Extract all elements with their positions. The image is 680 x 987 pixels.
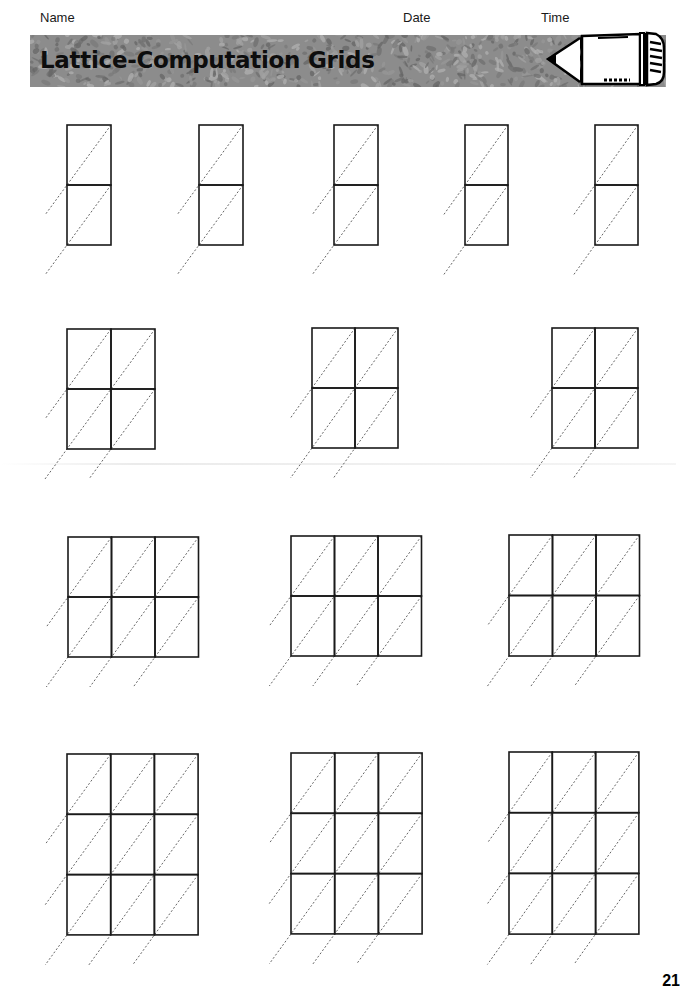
diagonal-guide-line (531, 328, 639, 478)
diagonal-guide-line (45, 754, 111, 845)
lattice-grid-3x2 (487, 535, 639, 686)
lattice-grid-2x2 (45, 329, 155, 479)
diagonal-guide-line (487, 535, 552, 626)
diagonal-guide-line (487, 535, 596, 686)
diagonal-guide-line (46, 537, 155, 687)
diagonal-guide-line (45, 754, 198, 965)
diagonal-guide-line (133, 875, 199, 965)
diagonal-guide-line (312, 185, 378, 275)
lattice-grid-1x2 (45, 125, 111, 275)
diagonal-guide-line (89, 814, 198, 965)
diagonal-guide-line (45, 125, 111, 215)
lattice-grid-1x2 (177, 125, 243, 275)
diagonal-guide-line (574, 125, 639, 215)
lattice-grid-2x2 (291, 328, 399, 478)
lattice-grid-1x2 (574, 125, 639, 275)
lattice-grid-3x2 (46, 537, 198, 687)
diagonal-guide-line (89, 389, 155, 479)
diagonal-guide-line (269, 536, 334, 626)
lattice-grid-2x2 (531, 328, 639, 478)
diagonal-guide-line (574, 596, 639, 687)
diagonal-guide-line (45, 329, 155, 479)
diagonal-guide-line (90, 537, 199, 687)
diagonal-guide-line (531, 535, 640, 686)
diagonal-guide-line (531, 813, 639, 965)
diagonal-guide-line (357, 874, 423, 964)
lattice-grid-3x2 (269, 536, 421, 686)
diagonal-guide-line (313, 536, 422, 686)
page-number: 21 (662, 972, 680, 987)
diagonal-guide-line (45, 185, 111, 275)
diagonal-guide-line (487, 752, 639, 965)
diagonal-guide-line (177, 185, 243, 275)
diagonal-guide-line (133, 597, 198, 687)
diagonal-guide-line (45, 329, 111, 419)
diagonal-guide-line (574, 388, 639, 478)
diagonal-guide-line (574, 873, 639, 964)
diagonal-guide-line (291, 328, 399, 478)
diagonal-guide-line (269, 753, 378, 904)
lattice-grid-3x3 (269, 753, 422, 964)
diagonal-guide-line (312, 125, 378, 215)
diagonal-guide-line (46, 537, 111, 627)
diagonal-guide-line (574, 185, 639, 275)
diagonal-guide-line (269, 753, 422, 964)
lattice-grid-1x2 (312, 125, 378, 275)
lattice-grid-3x3 (45, 754, 198, 965)
diagonal-guide-line (356, 596, 421, 686)
diagonal-guide-line (334, 388, 399, 478)
diagonal-guide-line (487, 752, 552, 843)
diagonal-guide-line (444, 185, 509, 275)
lattice-grid-1x2 (444, 125, 509, 275)
diagonal-guide-line (313, 813, 422, 964)
diagonal-guide-line (177, 125, 243, 215)
diagonal-guide-line (531, 328, 596, 418)
diagonal-guide-line (45, 754, 154, 905)
diagonal-guide-line (291, 328, 356, 418)
diagonal-guide-line (444, 125, 509, 215)
diagonal-guide-line (269, 753, 335, 844)
lattice-grid-3x3 (487, 752, 639, 965)
diagonal-guide-line (269, 536, 378, 686)
diagonal-guide-line (487, 752, 595, 904)
